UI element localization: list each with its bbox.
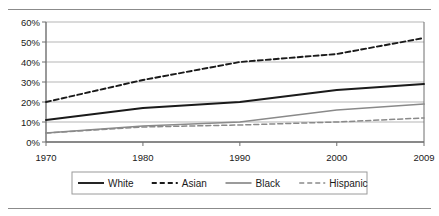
legend-label-hispanic: Hispanic [329,178,367,189]
legend-label-white: White [108,178,134,189]
y-tick-label: 50% [21,37,41,48]
y-tick-label: 20% [21,97,41,108]
chart-figure: 0%10%20%30%40%50%60% 1970198019902000200… [0,0,439,216]
data-series-group [46,38,424,133]
line-chart-plot: 0%10%20%30%40%50%60% 1970198019902000200… [0,0,439,216]
series-line-black [46,104,424,133]
x-tick-label: 1970 [35,152,56,163]
y-tick-label: 60% [21,17,41,28]
y-tick-label: 10% [21,117,41,128]
x-tick-label: 1980 [132,152,153,163]
x-tick-label: 2009 [413,152,434,163]
x-tick-label: 2000 [326,152,347,163]
y-tick-label: 40% [21,57,41,68]
chart-legend: WhiteAsianBlackHispanic [72,172,368,194]
legend-label-asian: Asian [182,178,207,189]
x-tick-label: 1990 [229,152,250,163]
gridlines-group [46,22,424,142]
y-tick-label: 0% [26,137,40,148]
y-tick-labels-group: 0%10%20%30%40%50%60% [21,17,46,148]
x-tick-labels-group: 19701980199020002009 [35,142,434,163]
series-line-asian [46,38,424,102]
legend-label-black: Black [256,178,281,189]
series-line-hispanic [46,118,424,133]
y-tick-label: 30% [21,77,41,88]
